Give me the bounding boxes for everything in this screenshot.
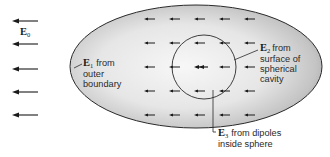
arrow-icon [12, 113, 38, 118]
svg-text:outer: outer [83, 69, 104, 79]
arrow-icon [12, 19, 38, 24]
arrow-icon [12, 67, 38, 72]
arrow-icon [12, 42, 38, 47]
svg-text:spherical: spherical [260, 64, 297, 74]
svg-text:boundary: boundary [83, 79, 122, 89]
svg-text:cavity: cavity [260, 74, 284, 84]
arrow-icon [12, 90, 38, 95]
e3-label: E3from dipoles inside sphere [218, 127, 282, 149]
svg-text:E2from: E2from [260, 42, 291, 54]
svg-text:E1from: E1from [83, 57, 115, 69]
svg-text:surface of: surface of [260, 54, 301, 64]
svg-text:E3from dipoles: E3from dipoles [218, 127, 282, 139]
e0-label: E0 [20, 26, 30, 38]
svg-text:inside sphere: inside sphere [218, 139, 273, 149]
dielectric-field-diagram: E0 [0, 0, 330, 157]
